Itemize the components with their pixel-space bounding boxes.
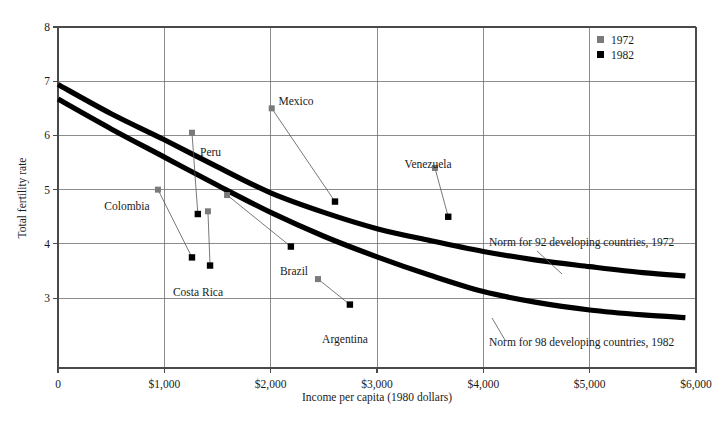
marker-peru-1982 xyxy=(195,211,201,217)
annotation-argentina: Argentina xyxy=(322,333,368,346)
x-tick-label-3: $3,000 xyxy=(361,378,393,391)
callout-norm-1982: Norm for 98 developing countries, 1982 xyxy=(489,336,674,349)
annotation-mexico: Mexico xyxy=(278,95,313,107)
marker-peru-1972 xyxy=(189,130,195,136)
x-tick-label-0: 0 xyxy=(55,378,61,390)
annotation-peru: Peru xyxy=(200,146,221,158)
marker-colombia-1982 xyxy=(189,254,195,260)
x-axis-title: Income per capita (1980 dollars) xyxy=(302,391,452,404)
marker-colombia-1972 xyxy=(155,187,161,193)
annotation-costa-rica: Costa Rica xyxy=(173,286,223,298)
chart-canvas: 0$1,000$2,000$3,000$4,000$5,000$6,000345… xyxy=(0,0,719,422)
y-tick-label-1: 4 xyxy=(44,238,50,250)
annotation-venezuela: Venezuela xyxy=(404,158,451,170)
y-tick-label-3: 6 xyxy=(44,129,50,141)
marker-mexico-1972 xyxy=(269,105,275,111)
y-tick-label-4: 7 xyxy=(44,75,50,87)
y-axis-title: Total fertility rate xyxy=(16,158,29,239)
x-tick-label-6: $6,000 xyxy=(680,378,712,391)
callout-norm-1972: Norm for 92 developing countries, 1972 xyxy=(489,236,674,249)
legend-label-1972: 1972 xyxy=(611,34,634,46)
x-tick-label-2: $2,000 xyxy=(255,378,287,391)
legend-swatch-1972 xyxy=(597,36,604,43)
marker-argentina-1972 xyxy=(315,276,321,282)
marker-brazil-1972 xyxy=(224,192,230,198)
annotation-brazil: Brazil xyxy=(280,265,308,277)
y-tick-label-2: 5 xyxy=(44,184,50,196)
x-tick-label-5: $5,000 xyxy=(574,378,606,391)
fertility-income-chart: 0$1,000$2,000$3,000$4,000$5,000$6,000345… xyxy=(0,0,719,422)
marker-argentina-1982 xyxy=(347,301,353,307)
annotation-colombia: Colombia xyxy=(104,200,149,212)
x-tick-label-4: $4,000 xyxy=(468,378,500,391)
marker-costa-rica-1972 xyxy=(205,208,211,214)
legend-swatch-1982 xyxy=(597,51,604,58)
marker-mexico-1982 xyxy=(332,198,338,204)
x-tick-label-1: $1,000 xyxy=(149,378,181,391)
y-tick-label-0: 3 xyxy=(44,292,50,304)
marker-venezuela-1982 xyxy=(445,214,451,220)
marker-brazil-1982 xyxy=(288,243,294,249)
y-tick-label-5: 8 xyxy=(44,21,50,33)
marker-costa-rica-1982 xyxy=(207,262,213,268)
legend-label-1982: 1982 xyxy=(611,49,634,61)
